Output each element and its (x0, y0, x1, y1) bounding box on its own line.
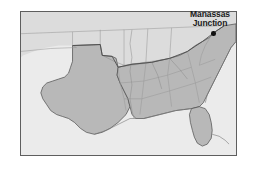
map-graphic (21, 12, 236, 155)
place-marker-dot (211, 31, 216, 36)
map-frame (20, 11, 237, 156)
map-figure: Manassas Junction (0, 0, 255, 178)
